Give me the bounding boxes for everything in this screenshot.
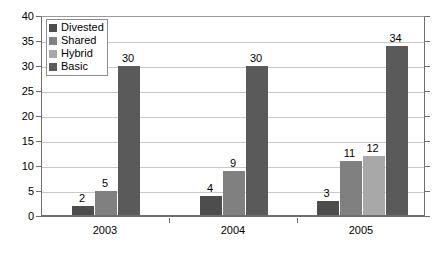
x-axis-tick-label: 2004 [169, 224, 297, 236]
bar [363, 156, 385, 216]
bar-value-label: 12 [356, 143, 390, 154]
y-axis-tick-label: 10 [4, 161, 34, 172]
bar-chart: 0510152025303540 200320042005 2530493031… [0, 0, 442, 255]
legend-item[interactable]: Shared [49, 34, 104, 47]
right-axis-tick-mark [425, 166, 430, 167]
right-axis-tick-mark [425, 16, 430, 17]
y-axis-tick-label: 30 [4, 61, 34, 72]
legend-item-label: Shared [61, 35, 96, 46]
axis-baseline [42, 215, 424, 216]
bar-value-label: 2 [65, 193, 99, 204]
right-axis-tick-mark [425, 141, 430, 142]
legend-item[interactable]: Basic [49, 60, 104, 73]
gridline [42, 117, 424, 118]
bar-value-label: 9 [216, 158, 250, 169]
x-axis-tick-label: 2003 [41, 224, 169, 236]
bar [386, 46, 408, 216]
right-axis-tick-mark [425, 66, 430, 67]
x-axis-tick-mark [297, 218, 298, 223]
legend-item[interactable]: Hybrid [49, 47, 104, 60]
x-axis-tick-label: 2005 [297, 224, 425, 236]
bar-value-label: 5 [88, 178, 122, 189]
bar [246, 66, 268, 216]
gridline [42, 92, 424, 93]
legend-item-label: Basic [61, 61, 88, 72]
legend-swatch-icon [49, 63, 57, 71]
legend-swatch-icon [49, 24, 57, 32]
bar-value-label: 30 [239, 53, 273, 64]
bar [200, 196, 222, 216]
legend-item-label: Hybrid [61, 48, 93, 59]
right-axis-tick-mark [425, 191, 430, 192]
y-axis-tick-label: 15 [4, 136, 34, 147]
legend-item[interactable]: Divested [49, 21, 104, 34]
bar [317, 201, 339, 216]
legend-swatch-icon [49, 37, 57, 45]
y-axis-tick-label: 40 [4, 11, 34, 22]
legend-item-label: Divested [61, 22, 104, 33]
y-axis-tick-label: 25 [4, 86, 34, 97]
right-axis-tick-mark [425, 116, 430, 117]
y-axis-tick-label: 5 [4, 186, 34, 197]
y-axis-tick-label: 20 [4, 111, 34, 122]
right-axis-tick-mark [425, 91, 430, 92]
bar-value-label: 34 [379, 33, 413, 44]
chart-legend: DivestedSharedHybridBasic [46, 19, 108, 76]
bar-value-label: 3 [310, 188, 344, 199]
y-axis-tick-label: 35 [4, 36, 34, 47]
bar [118, 66, 140, 216]
bar-value-label: 4 [193, 183, 227, 194]
right-axis-tick-mark [425, 216, 430, 217]
x-axis-tick-mark [169, 218, 170, 223]
legend-swatch-icon [49, 50, 57, 58]
right-axis-tick-mark [425, 41, 430, 42]
y-axis-tick-label: 0 [4, 211, 34, 222]
bar-value-label: 30 [111, 53, 145, 64]
